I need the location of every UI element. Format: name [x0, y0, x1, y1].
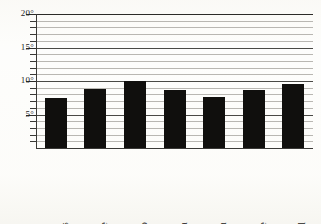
bar: [84, 89, 106, 148]
y-axis-tick-minor: [30, 54, 36, 55]
bar: [164, 90, 186, 148]
x-axis-line: [36, 148, 313, 149]
bar: [282, 84, 304, 148]
bar: [203, 97, 225, 148]
x-axis-tick-label: Swansea: [179, 222, 189, 224]
y-axis-tick-label: 15°: [0, 42, 34, 52]
y-axis-tick-minor: [30, 27, 36, 28]
y-axis-tick-label: 10°: [0, 75, 34, 85]
y-axis-tick-label: 20°: [0, 8, 34, 18]
x-axis-tick-label: Harwich: [218, 222, 228, 224]
bar-chart: St AndrewsLarneSligoSwanseaHarwichEastbo…: [0, 0, 321, 224]
x-axis-tick-label: Larne: [99, 222, 109, 224]
y-axis-tick-minor: [30, 121, 36, 122]
x-axis-tick-label: St Austell: [297, 222, 307, 224]
x-axis-labels: St AndrewsLarneSligoSwanseaHarwichEastbo…: [36, 150, 313, 224]
y-axis-tick-minor: [30, 128, 36, 129]
bars-layer: [36, 14, 313, 148]
x-axis-tick-label: Eastbourne: [258, 222, 268, 224]
y-axis-tick-minor: [30, 68, 36, 69]
y-axis-tick-minor: [30, 135, 36, 136]
bar: [124, 81, 146, 148]
y-axis-tick-minor: [30, 21, 36, 22]
y-axis-tick-minor: [30, 88, 36, 89]
y-axis-tick-label: 5°: [0, 109, 34, 119]
bar: [45, 98, 67, 148]
y-axis-tick-minor: [30, 94, 36, 95]
x-axis-tick-label: Sligo: [139, 222, 149, 224]
bar: [243, 90, 265, 148]
y-axis-tick-minor: [30, 34, 36, 35]
y-axis-tick-minor: [30, 61, 36, 62]
x-axis-tick-label: St Andrews: [60, 222, 70, 224]
y-axis-tick-minor: [30, 141, 36, 142]
y-axis-tick-minor: [30, 101, 36, 102]
